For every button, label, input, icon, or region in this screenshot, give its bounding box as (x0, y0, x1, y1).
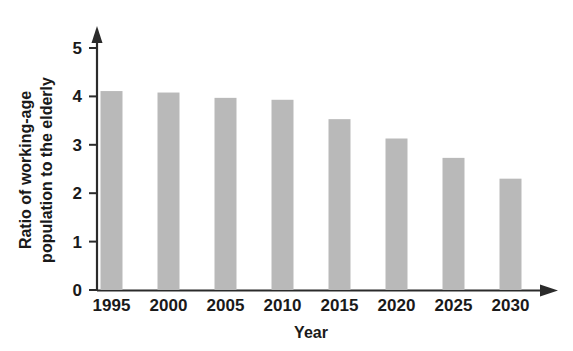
x-tick-label: 2015 (321, 296, 359, 315)
y-tick-group: 012345 (73, 39, 97, 300)
y-tick-label: 5 (73, 39, 82, 58)
x-axis-title: Year (294, 324, 328, 341)
bar (272, 100, 294, 290)
y-tick-label: 3 (73, 136, 82, 155)
x-tick-label: 2030 (492, 296, 530, 315)
bar (158, 93, 180, 290)
bar (386, 139, 408, 290)
y-tick-label: 4 (73, 87, 83, 106)
y-axis-title-line1: Ratio of working-age (17, 91, 34, 249)
x-tick-label: 1995 (93, 296, 131, 315)
x-tick-label: 2010 (264, 296, 302, 315)
x-tick-label: 2000 (150, 296, 188, 315)
y-axis-title-line2: population to the elderly (38, 77, 55, 263)
y-axis-title: Ratio of working-age population to the e… (17, 77, 55, 263)
x-tick-label: 2025 (435, 296, 473, 315)
bar-series (101, 91, 522, 290)
x-tick-group: 19952000200520102015202020252030 (93, 296, 530, 315)
x-tick-label: 2005 (207, 296, 245, 315)
bar (500, 179, 522, 290)
x-axis-arrow-right-icon (540, 285, 558, 297)
y-tick-label: 2 (73, 184, 82, 203)
y-axis-arrow-up-icon (92, 26, 103, 43)
bar-chart: 012345 19952000200520102015202020252030 … (0, 0, 573, 351)
bar (443, 158, 465, 290)
y-tick-label: 0 (73, 281, 82, 300)
bar (215, 98, 237, 290)
bar (101, 91, 123, 290)
chart-canvas: 012345 19952000200520102015202020252030 … (0, 0, 573, 351)
x-tick-label: 2020 (378, 296, 416, 315)
y-tick-label: 1 (73, 233, 82, 252)
bar (329, 119, 351, 290)
